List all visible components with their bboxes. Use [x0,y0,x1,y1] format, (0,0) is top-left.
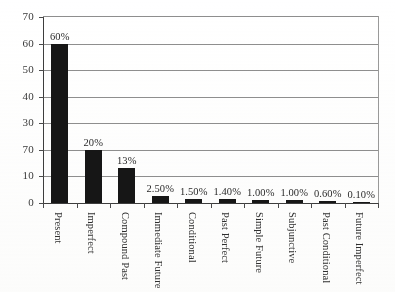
x-axis-category-label: Imperfect [86,212,97,254]
bar [185,199,202,203]
gridline [43,123,378,124]
x-axis-tick-mark [177,203,178,208]
y-axis-tick-mark [39,44,44,45]
x-axis-tick-mark [278,203,279,208]
x-axis-category-label: Past Perfect [220,212,231,263]
x-axis-tick-mark [43,203,44,208]
x-axis-tick-mark [144,203,145,208]
x-axis-category-label: Immediate Future [153,212,164,289]
y-axis-tick-label: 70 [0,144,34,155]
y-axis-tick-label: 10 [0,170,34,181]
bar [319,201,336,203]
y-axis-tick-label: 50 [0,64,34,75]
bar [51,44,68,203]
x-axis-tick-mark [311,203,312,208]
bar [219,199,236,203]
y-axis-tick-mark [39,17,44,18]
bar [152,196,169,203]
y-axis-tick-label: 30 [0,117,34,128]
x-axis-category-label: Present [53,212,64,244]
bar [252,200,269,203]
y-axis-tick-label: 70 [0,11,34,22]
bar-chart: 010703040506070 60%Present20%Imperfect13… [0,0,395,292]
bar-value-label: 20% [71,137,115,148]
bar [85,150,102,203]
gridline [43,70,378,71]
y-axis-tick-mark [39,150,44,151]
bar-value-label: 13% [105,155,149,166]
x-axis-tick-mark [211,203,212,208]
bar [353,202,370,203]
y-axis-tick-mark [39,70,44,71]
y-axis-tick-label: 0 [0,197,34,208]
plot-area [43,17,378,203]
bar-value-label: 0.10% [339,189,383,200]
gridline [43,44,378,45]
x-axis-tick-mark [378,203,379,208]
y-axis-tick-mark [39,97,44,98]
y-axis-tick-label: 60 [0,38,34,49]
bar [286,200,303,203]
x-axis-tick-mark [110,203,111,208]
y-axis-tick-label: 40 [0,91,34,102]
x-axis-category-label: Compound Past [120,212,131,280]
plot-frame-right [378,16,379,204]
x-axis-tick-mark [345,203,346,208]
x-axis-category-label: Future Imperfect [354,212,365,284]
y-axis: 010703040506070 [0,0,40,292]
x-axis-category-label: Conditional [187,212,198,263]
x-axis-tick-mark [77,203,78,208]
y-axis-tick-mark [39,176,44,177]
bar-value-label: 60% [38,31,82,42]
y-axis-tick-mark [39,123,44,124]
bar [118,168,135,203]
x-axis-category-label: Simple Future [254,212,265,273]
x-axis-tick-mark [244,203,245,208]
gridline [43,97,378,98]
x-axis-category-label: Past Conditional [321,212,332,283]
x-axis-category-label: Subjunctive [287,212,298,263]
